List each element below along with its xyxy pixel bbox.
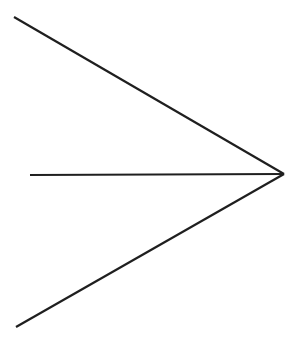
shaft-line [30,174,284,175]
rightward-arrow-figure [0,0,303,353]
canvas-background [0,0,303,353]
drawing-canvas [0,0,303,353]
